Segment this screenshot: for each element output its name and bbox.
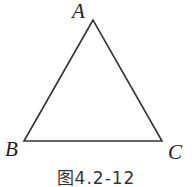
triangle-abc bbox=[0, 0, 192, 187]
figure-caption: 图4.2-12 bbox=[0, 170, 192, 187]
vertex-label-b: B bbox=[5, 139, 18, 160]
triangle-figure: A B C 图4.2-12 bbox=[0, 0, 192, 187]
vertex-label-a: A bbox=[72, 1, 85, 22]
vertex-label-c: C bbox=[168, 142, 182, 163]
